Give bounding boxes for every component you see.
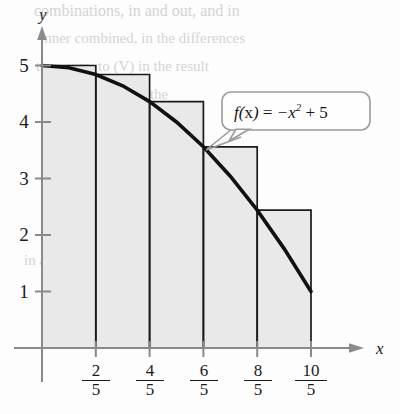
x-tick-fraction-5: 10 5 [295, 362, 327, 398]
x-axis-arrow-icon [349, 343, 364, 353]
riemann-sum-figure: combinations, in and out, and in inner c… [0, 0, 400, 414]
y-axis-tick-labels: 1 2 3 4 5 [19, 55, 29, 302]
x-tick-fraction-1: 2 5 [82, 362, 110, 398]
y-axis-label: y [37, 5, 47, 24]
x-tick-fraction-5-denominator: 5 [295, 380, 327, 398]
x-tick-fraction-1-numerator: 2 [82, 362, 110, 379]
x-tick-fraction-2-numerator: 4 [136, 362, 164, 379]
y-tick-label-3: 3 [19, 168, 29, 189]
rectangle-fill-1 [42, 66, 96, 349]
x-tick-fraction-2: 4 5 [136, 362, 164, 398]
callout-tail [229, 129, 249, 141]
x-tick-fraction-3-numerator: 6 [190, 362, 218, 379]
x-axis-label: x [375, 339, 384, 358]
x-tick-fraction-4: 8 5 [244, 362, 272, 398]
x-tick-fraction-2-denominator: 5 [136, 380, 164, 398]
y-tick-label-2: 2 [19, 224, 29, 245]
x-tick-fraction-4-numerator: 8 [244, 362, 272, 379]
x-tick-fraction-3: 6 5 [190, 362, 218, 398]
x-tick-fraction-4-denominator: 5 [244, 380, 272, 398]
y-axis-arrow-icon [37, 26, 47, 40]
x-tick-fraction-3-denominator: 5 [190, 380, 218, 398]
rectangle-fill-2 [96, 75, 150, 349]
plot-svg: 1 2 3 4 5 y x [0, 0, 400, 414]
y-tick-label-5: 5 [19, 55, 29, 76]
y-tick-label-4: 4 [19, 111, 29, 132]
x-tick-fraction-1-denominator: 5 [82, 380, 110, 398]
x-tick-fraction-5-numerator: 10 [295, 362, 327, 379]
curve-label: f(x) = −x2 + 5 [234, 101, 328, 123]
y-tick-label-1: 1 [19, 281, 29, 302]
